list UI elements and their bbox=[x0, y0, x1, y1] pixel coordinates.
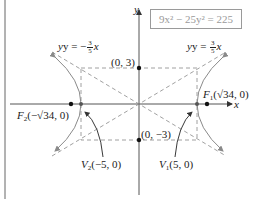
label-co-vertex-bottom: (0, −3) bbox=[141, 129, 171, 140]
point-vertex-left bbox=[79, 102, 83, 106]
asymptote-left-label: yy = −35x bbox=[58, 40, 99, 55]
point-focus-left bbox=[69, 102, 73, 106]
label-vertex-right: V1(5, 0) bbox=[159, 159, 193, 172]
label-focus-left: F2(−√34, 0) bbox=[17, 110, 69, 123]
leader-vertex-left bbox=[85, 112, 103, 157]
point-vertex-right bbox=[195, 102, 199, 106]
equation-box: 9x² − 25y² = 225 bbox=[150, 9, 242, 29]
equation-text: 9x² − 25y² = 225 bbox=[159, 13, 233, 25]
point-focus-right bbox=[205, 102, 209, 106]
asymptote-right-label: yy = 35x bbox=[187, 40, 222, 55]
label-focus-right: F1(√34, 0) bbox=[203, 89, 249, 102]
label-co-vertex-top: (0, 3) bbox=[111, 57, 135, 68]
y-axis-label: y bbox=[134, 4, 139, 15]
leader-vertex-right bbox=[175, 112, 192, 157]
label-vertex-left: V2(−5, 0) bbox=[81, 159, 121, 172]
point-co-vertex-top bbox=[137, 66, 141, 70]
